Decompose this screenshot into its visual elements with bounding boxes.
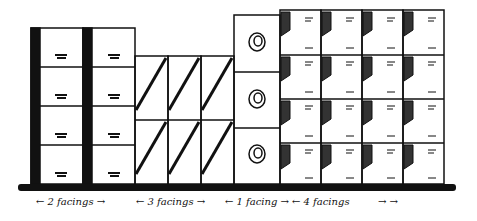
caption-1-facing: ← 1 facing → (225, 196, 289, 207)
caption-4-facings: ← 4 facings (292, 196, 350, 207)
caption-2-facings: ← 2 facings → (36, 196, 105, 207)
caption-4-facings-arrows: → → (378, 196, 398, 207)
caption-3-facings: ← 3 facings → (136, 196, 205, 207)
group-4-facings (280, 10, 444, 184)
group-3-facings (135, 56, 234, 184)
group-2-facings (31, 28, 138, 184)
shelf-bar (18, 184, 456, 191)
group-1-facing (234, 15, 280, 184)
shelf-illustration (0, 0, 477, 221)
